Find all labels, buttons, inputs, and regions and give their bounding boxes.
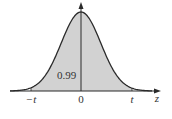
normal-curve-diagram: 0.99 −t 0 t z: [0, 0, 172, 119]
tick-label-neg-t: −t: [26, 93, 37, 105]
axis-variable-label: z: [154, 92, 160, 104]
tick-label-pos-t: t: [130, 93, 134, 105]
area-label: 0.99: [57, 69, 77, 81]
y-axis-arrow-icon: [79, 2, 84, 9]
tick-label-zero: 0: [78, 93, 84, 105]
